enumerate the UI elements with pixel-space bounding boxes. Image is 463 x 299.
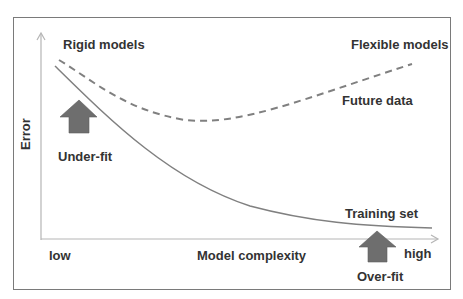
y-axis-label: Error: [19, 118, 32, 150]
under-fit-arrow-icon: [60, 100, 97, 133]
flexible-models-label: Flexible models: [351, 38, 449, 51]
y-axis: [37, 33, 45, 240]
training-set-curve: [55, 66, 432, 228]
rigid-models-label: Rigid models: [63, 38, 145, 51]
future-data-label: Future data: [342, 94, 413, 107]
x-axis-high-label: high: [404, 247, 431, 260]
over-fit-label: Over-fit: [357, 270, 403, 283]
x-axis-label: Model complexity: [197, 249, 306, 262]
x-axis-low-label: low: [49, 249, 71, 262]
over-fit-arrow-icon: [359, 231, 396, 262]
under-fit-label: Under-fit: [58, 150, 112, 163]
future-data-curve: [59, 60, 412, 121]
training-set-label: Training set: [345, 207, 418, 220]
